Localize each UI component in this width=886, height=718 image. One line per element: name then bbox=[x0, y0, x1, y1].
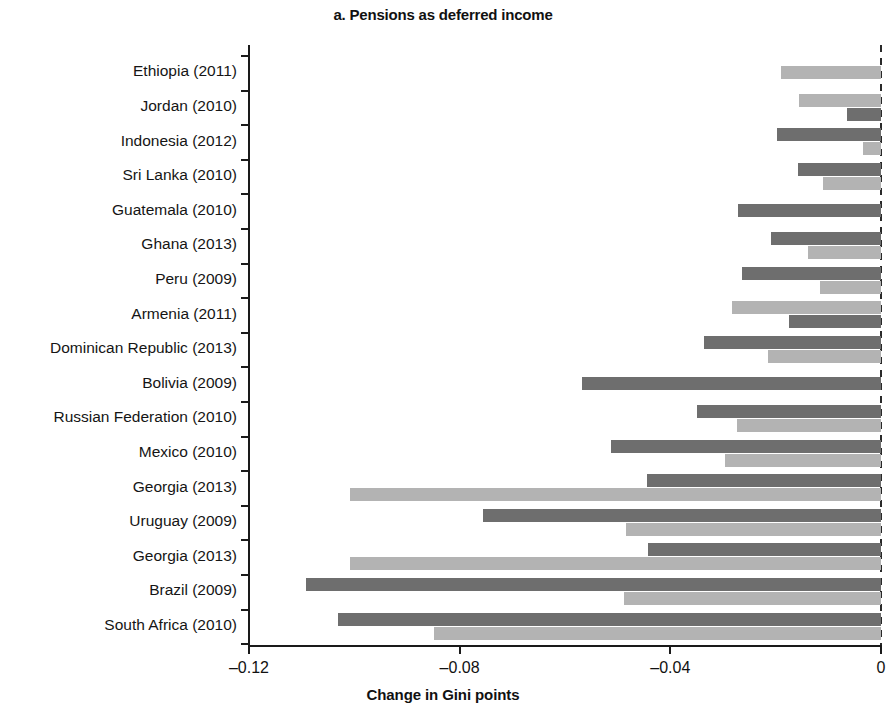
bar-light bbox=[781, 66, 881, 79]
x-axis-title: Change in Gini points bbox=[0, 686, 886, 703]
x-axis-tick bbox=[248, 645, 250, 654]
bar-light bbox=[626, 523, 881, 536]
y-axis-tick bbox=[241, 366, 249, 368]
bar-dark bbox=[338, 613, 881, 626]
y-axis-tick bbox=[241, 124, 249, 126]
y-axis-tick bbox=[241, 470, 249, 472]
category-label: Jordan (2010) bbox=[0, 97, 249, 115]
bar-dark bbox=[306, 578, 881, 591]
x-axis-tick-label: –0.12 bbox=[229, 659, 269, 677]
x-axis-tick bbox=[669, 645, 671, 654]
bar-dark bbox=[771, 232, 881, 245]
bar-dark bbox=[777, 128, 881, 141]
category-label: Dominican Republic (2013) bbox=[0, 339, 249, 357]
bar-dark bbox=[847, 108, 881, 121]
bar-dark bbox=[798, 163, 881, 176]
category-label: South Africa (2010) bbox=[0, 616, 249, 634]
bar-dark bbox=[582, 377, 881, 390]
bar-light bbox=[737, 419, 881, 432]
figure: a. Pensions as deferred income Ethiopia … bbox=[0, 0, 886, 718]
x-axis-line bbox=[248, 645, 882, 647]
x-axis-tick-label: –0.04 bbox=[650, 659, 690, 677]
category-label: Russian Federation (2010) bbox=[0, 408, 249, 426]
bar-light bbox=[624, 592, 881, 605]
category-label: Sri Lanka (2010) bbox=[0, 166, 249, 184]
bar-light bbox=[823, 177, 881, 190]
y-axis-tick bbox=[241, 297, 249, 299]
bar-light bbox=[732, 301, 881, 314]
category-label: Indonesia (2012) bbox=[0, 132, 249, 150]
bar-light bbox=[820, 281, 881, 294]
y-axis-tick bbox=[241, 90, 249, 92]
y-axis-tick bbox=[241, 159, 249, 161]
y-axis-tick bbox=[241, 539, 249, 541]
category-label: Bolivia (2009) bbox=[0, 374, 249, 392]
category-label: Georgia (2013) bbox=[0, 478, 249, 496]
plot-area: Ethiopia (2011)Jordan (2010)Indonesia (2… bbox=[0, 45, 886, 645]
x-axis-tick-label: 0 bbox=[877, 659, 886, 677]
y-axis-tick bbox=[241, 436, 249, 438]
bar-dark bbox=[789, 315, 881, 328]
y-axis-tick bbox=[241, 193, 249, 195]
bar-light bbox=[725, 454, 881, 467]
bar-dark bbox=[647, 474, 881, 487]
category-label: Brazil (2009) bbox=[0, 581, 249, 599]
category-label: Georgia (2013) bbox=[0, 547, 249, 565]
category-label: Armenia (2011) bbox=[0, 305, 249, 323]
x-axis-tick-label: –0.08 bbox=[440, 659, 480, 677]
category-label: Ghana (2013) bbox=[0, 235, 249, 253]
y-axis-tick bbox=[241, 609, 249, 611]
bar-light bbox=[799, 94, 881, 107]
bar-dark bbox=[483, 509, 881, 522]
y-axis-tick bbox=[241, 401, 249, 403]
bar-dark bbox=[742, 267, 881, 280]
bar-light bbox=[350, 557, 881, 570]
y-axis-tick bbox=[241, 263, 249, 265]
y-axis-tick bbox=[241, 228, 249, 230]
chart-title: a. Pensions as deferred income bbox=[0, 6, 886, 23]
category-label: Peru (2009) bbox=[0, 270, 249, 288]
bar-light bbox=[434, 627, 881, 640]
bar-dark bbox=[611, 440, 881, 453]
bar-dark bbox=[738, 204, 881, 217]
y-axis-tick bbox=[241, 574, 249, 576]
y-axis-tick bbox=[241, 55, 249, 57]
x-axis-tick bbox=[459, 645, 461, 654]
category-label: Ethiopia (2011) bbox=[0, 62, 249, 80]
y-axis-tick bbox=[241, 332, 249, 334]
category-label: Uruguay (2009) bbox=[0, 512, 249, 530]
bar-light bbox=[350, 488, 881, 501]
bar-dark bbox=[704, 336, 881, 349]
bar-light bbox=[808, 246, 881, 259]
category-label: Mexico (2010) bbox=[0, 443, 249, 461]
y-axis-tick bbox=[241, 505, 249, 507]
bar-light bbox=[863, 142, 881, 155]
bar-dark bbox=[648, 543, 881, 556]
category-label: Guatemala (2010) bbox=[0, 201, 249, 219]
bar-light bbox=[768, 350, 881, 363]
bar-dark bbox=[697, 405, 881, 418]
x-axis-tick bbox=[880, 645, 882, 654]
